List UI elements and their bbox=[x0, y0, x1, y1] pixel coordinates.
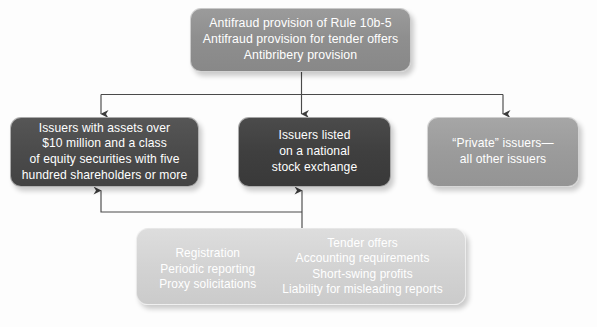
issuers-assets-line-3: of equity securities with five bbox=[29, 152, 179, 168]
node-antifraud-provisions[interactable]: Antifraud provision of Rule 10b-5 Antifr… bbox=[190, 8, 411, 72]
node-private-issuers[interactable]: “Private” issuers— all other issuers bbox=[427, 117, 579, 187]
requirements-right-line-4: Liability for misleading reports bbox=[282, 282, 443, 297]
issuers-listed-line-2: on a national bbox=[279, 144, 350, 160]
issuers-listed-line-3: stock exchange bbox=[272, 160, 357, 176]
requirements-right-line-2: Accounting requirements bbox=[296, 251, 430, 266]
requirements-left-line-2: Periodic reporting bbox=[160, 262, 255, 277]
private-issuers-line-1: “Private” issuers— bbox=[452, 136, 553, 152]
requirements-left-line-1: Registration bbox=[175, 246, 240, 261]
node-issuers-with-assets[interactable]: Issuers with assets over $10 million and… bbox=[10, 117, 199, 187]
connector-requirements-to-issuers-assets bbox=[101, 191, 302, 213]
requirements-left-line-3: Proxy solicitations bbox=[159, 277, 256, 292]
issuers-assets-line-2: $10 million and a class bbox=[42, 136, 167, 152]
issuers-assets-line-4: hundred shareholders or more bbox=[22, 168, 188, 184]
private-issuers-line-2: all other issuers bbox=[460, 152, 546, 168]
issuers-assets-line-1: Issuers with assets over bbox=[39, 121, 170, 137]
antifraud-line-3: Antibribery provision bbox=[244, 48, 358, 64]
antifraud-line-2: Antifraud provision for tender offers bbox=[203, 32, 399, 48]
node-reporting-requirements[interactable]: Registration Periodic reporting Proxy so… bbox=[136, 228, 466, 305]
requirements-right-line-3: Short-swing profits bbox=[312, 267, 412, 282]
antifraud-line-1: Antifraud provision of Rule 10b-5 bbox=[209, 16, 391, 32]
diagram-canvas: Antifraud provision of Rule 10b-5 Antifr… bbox=[0, 0, 597, 327]
requirements-left-column: Registration Periodic reporting Proxy so… bbox=[159, 246, 256, 292]
issuers-listed-line-1: Issuers listed bbox=[279, 128, 351, 144]
node-issuers-listed-exchange[interactable]: Issuers listed on a national stock excha… bbox=[238, 117, 391, 187]
requirements-right-column: Tender offers Accounting requirements Sh… bbox=[282, 236, 443, 298]
requirements-right-line-1: Tender offers bbox=[327, 236, 397, 251]
